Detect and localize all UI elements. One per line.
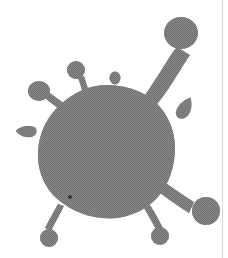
image-canvas: Grayscale halftone illustration of a vir… <box>0 0 228 258</box>
virus-illustration: Grayscale halftone illustration of a vir… <box>0 0 228 258</box>
detached-particle-top-oval <box>110 72 121 85</box>
nucleus-dot <box>68 195 72 199</box>
